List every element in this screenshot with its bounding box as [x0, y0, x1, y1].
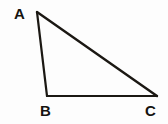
triangle-diagram [0, 0, 168, 124]
geometry-figure: A B C [0, 0, 168, 124]
vertex-label-c: C [145, 103, 156, 118]
vertex-label-b: B [40, 103, 51, 118]
figure-background [0, 0, 168, 124]
vertex-label-a: A [14, 6, 25, 21]
